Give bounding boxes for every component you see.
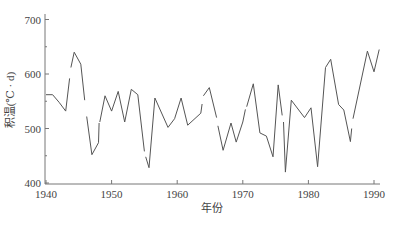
x-axis-title: 年份 (201, 201, 223, 214)
line-segment (353, 50, 379, 119)
line-segment (71, 52, 85, 100)
x-tick-label: 1960 (166, 188, 189, 200)
x-tick-label: 1940 (35, 188, 58, 200)
x-tick-label: 1980 (297, 188, 320, 200)
line-segment (100, 89, 145, 151)
x-tick-label: 1950 (101, 188, 124, 200)
line-segment (87, 117, 99, 155)
y-tick-label: 500 (25, 123, 42, 135)
x-tick-label: 1990 (363, 188, 386, 200)
y-axis-title: 积温(℃ · d) (4, 72, 17, 129)
line-segment (146, 98, 202, 168)
x-tick-label: 1970 (232, 188, 255, 200)
line-segment (46, 78, 70, 111)
x-ticks: 194019501960197019801990 (35, 180, 386, 200)
y-tick-label: 700 (25, 14, 42, 26)
line-segment (284, 59, 352, 172)
line-segment (203, 88, 216, 118)
line-segment (247, 84, 283, 157)
y-tick-label: 600 (25, 68, 42, 80)
line-segment (218, 109, 246, 150)
data-series-line (46, 50, 379, 173)
line-chart: 400500600700 194019501960197019801990 年份… (0, 0, 394, 226)
